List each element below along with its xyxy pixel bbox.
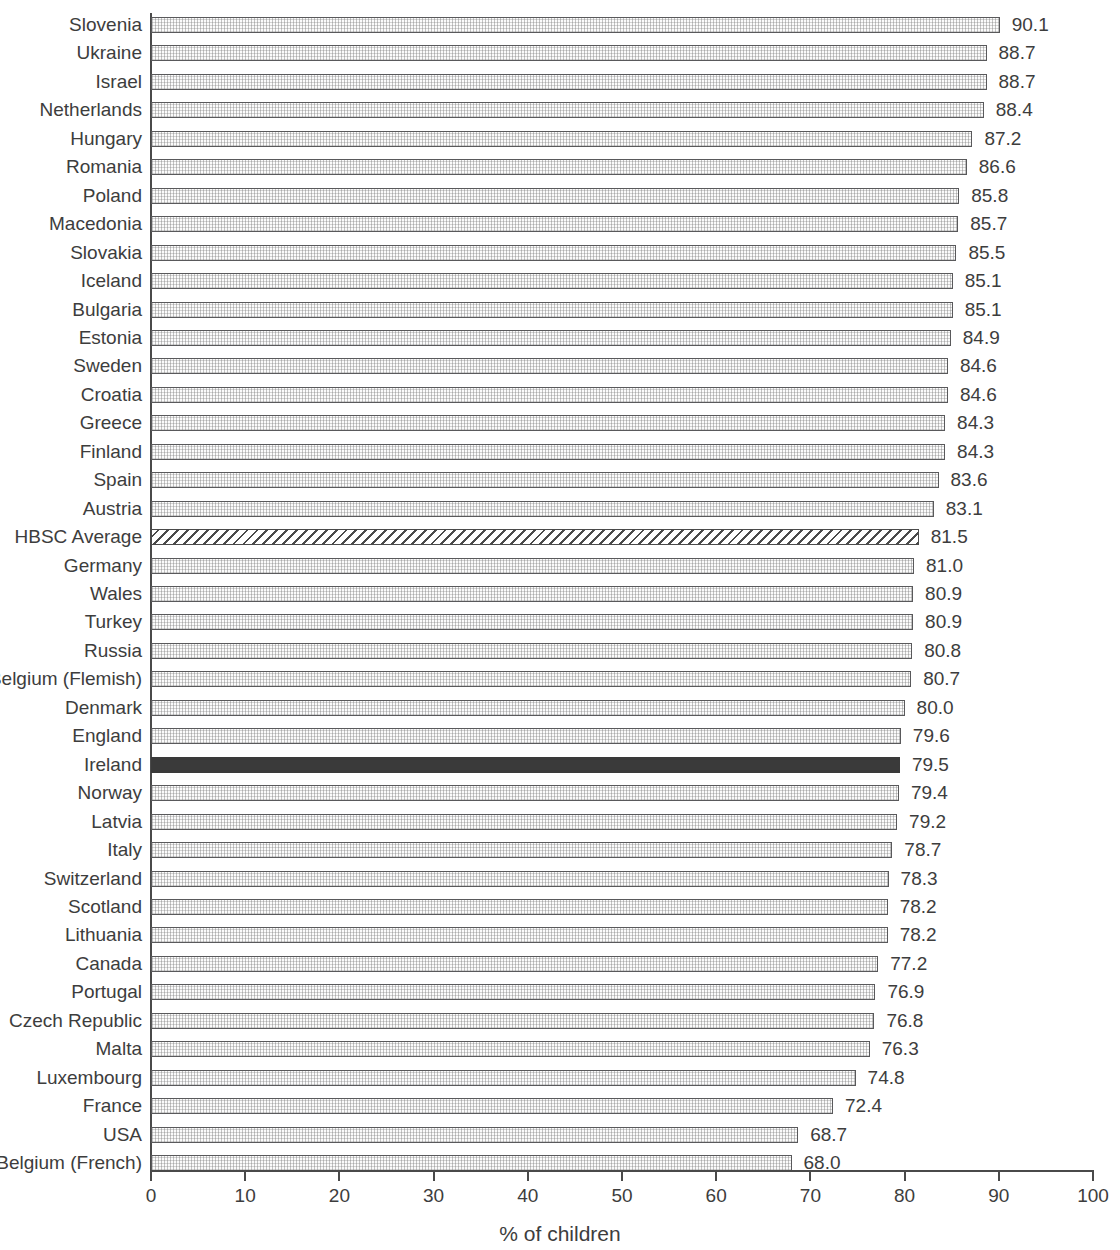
bar <box>151 956 878 972</box>
bar-value-label: 86.6 <box>979 156 1016 178</box>
bar <box>151 871 889 887</box>
bar-row: Portugal76.9 <box>0 981 1120 1003</box>
bar-row: Romania86.6 <box>0 156 1120 178</box>
axis-tick-label: 0 <box>146 1185 157 1207</box>
bar-value-label: 88.4 <box>996 99 1033 121</box>
category-label: USA <box>103 1124 142 1146</box>
bar-value-label: 87.2 <box>984 128 1021 150</box>
bar-value-label: 68.7 <box>810 1124 847 1146</box>
bar-value-label: 79.4 <box>911 782 948 804</box>
bar-row: Czech Republic76.8 <box>0 1010 1120 1032</box>
bar-row: Wales80.9 <box>0 583 1120 605</box>
bar-value-label: 76.9 <box>887 981 924 1003</box>
category-label: Poland <box>83 185 142 207</box>
bar-row: Croatia84.6 <box>0 384 1120 406</box>
bar-value-label: 79.2 <box>909 811 946 833</box>
bar-row: Ireland79.5 <box>0 754 1120 776</box>
bar-value-label: 84.6 <box>960 384 997 406</box>
bar <box>151 273 953 289</box>
bar-value-label: 84.3 <box>957 412 994 434</box>
category-label: Greece <box>80 412 142 434</box>
axis-tick-mark <box>338 1172 340 1181</box>
axis-tick-mark <box>621 1172 623 1181</box>
axis-tick-label: 100 <box>1077 1185 1109 1207</box>
bar <box>151 984 875 1000</box>
bar-row: Slovenia90.1 <box>0 14 1120 36</box>
axis-tick-label: 10 <box>235 1185 256 1207</box>
bar <box>151 842 892 858</box>
bar-value-label: 84.6 <box>960 355 997 377</box>
bar-row: Greece84.3 <box>0 412 1120 434</box>
bar-value-label: 81.5 <box>931 526 968 548</box>
axis-tick-mark <box>904 1172 906 1181</box>
category-label: Luxembourg <box>36 1067 142 1089</box>
category-label: Switzerland <box>44 868 142 890</box>
category-label: Norway <box>78 782 142 804</box>
bar-row: Switzerland78.3 <box>0 868 1120 890</box>
bar-value-label: 85.8 <box>971 185 1008 207</box>
axis-tick-mark <box>715 1172 717 1181</box>
axis-tick-label: 70 <box>800 1185 821 1207</box>
category-label: Wales <box>90 583 142 605</box>
axis-tick-mark <box>809 1172 811 1181</box>
category-label: Belgium (Flemish) <box>0 668 142 690</box>
bar <box>151 700 905 716</box>
bar <box>151 358 948 374</box>
bar-value-label: 81.0 <box>926 555 963 577</box>
bar-row: Turkey80.9 <box>0 611 1120 633</box>
bar-row: Israel88.7 <box>0 71 1120 93</box>
bar-value-label: 88.7 <box>999 71 1036 93</box>
bar-value-label: 84.3 <box>957 441 994 463</box>
bar-row: Italy78.7 <box>0 839 1120 861</box>
bar <box>151 415 945 431</box>
bar <box>151 614 913 630</box>
bar-row: Estonia84.9 <box>0 327 1120 349</box>
category-label: Czech Republic <box>9 1010 142 1032</box>
category-label: HBSC Average <box>15 526 142 548</box>
bar-row: Scotland78.2 <box>0 896 1120 918</box>
bar <box>151 1098 833 1114</box>
bar <box>151 444 945 460</box>
bar-value-label: 85.1 <box>965 299 1002 321</box>
bar-row: Macedonia85.7 <box>0 213 1120 235</box>
bar <box>151 927 888 943</box>
axis-tick-mark <box>244 1172 246 1181</box>
bar-value-label: 79.6 <box>913 725 950 747</box>
bar-value-label: 88.7 <box>999 42 1036 64</box>
bar-value-label: 78.2 <box>900 896 937 918</box>
bar-value-label: 85.5 <box>968 242 1005 264</box>
bar-row: Bulgaria85.1 <box>0 299 1120 321</box>
bar-row: France72.4 <box>0 1095 1120 1117</box>
bar-value-label: 83.1 <box>946 498 983 520</box>
axis-tick-mark <box>1092 1172 1094 1181</box>
category-label: Ireland <box>84 754 142 776</box>
bar-value-label: 80.8 <box>924 640 961 662</box>
bar <box>151 188 959 204</box>
category-label: Latvia <box>91 811 142 833</box>
category-label: Canada <box>75 953 142 975</box>
category-label: Austria <box>83 498 142 520</box>
bar <box>151 17 1000 33</box>
category-label: Romania <box>66 156 142 178</box>
bar-value-label: 78.3 <box>901 868 938 890</box>
bar-row: Luxembourg74.8 <box>0 1067 1120 1089</box>
bar <box>151 757 900 773</box>
bar-value-label: 80.7 <box>923 668 960 690</box>
plot-area: Slovenia90.1Ukraine88.7Israel88.7Netherl… <box>0 0 1120 1250</box>
bar <box>151 814 897 830</box>
category-label: Finland <box>80 441 142 463</box>
bar-row: Russia80.8 <box>0 640 1120 662</box>
bar-value-label: 84.9 <box>963 327 1000 349</box>
bar-row: Poland85.8 <box>0 185 1120 207</box>
bar-row: Germany81.0 <box>0 555 1120 577</box>
bar-value-label: 76.8 <box>886 1010 923 1032</box>
category-label: Portugal <box>71 981 142 1003</box>
bar <box>151 74 987 90</box>
category-label: Belgium (French) <box>0 1152 142 1174</box>
bar-row: Belgium (Flemish)80.7 <box>0 668 1120 690</box>
category-label: Slovakia <box>70 242 142 264</box>
category-label: Denmark <box>65 697 142 719</box>
bar-row: Spain83.6 <box>0 469 1120 491</box>
bar-row: Lithuania78.2 <box>0 924 1120 946</box>
bar-row: Slovakia85.5 <box>0 242 1120 264</box>
